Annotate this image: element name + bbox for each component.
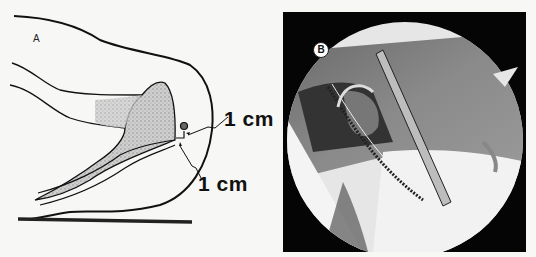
bone-outline	[12, 63, 142, 95]
panel-b-label: B	[313, 42, 329, 58]
portal-marker	[181, 123, 188, 130]
panel-a-label: A	[33, 33, 40, 44]
leader-line	[188, 117, 228, 135]
table-line	[18, 219, 192, 222]
panel-a-diagram: A 1 cm 1 cm	[0, 0, 280, 257]
measurement-label: 1 cm	[198, 172, 248, 196]
panel-b-arthroscopic-image: B	[283, 12, 526, 252]
measurement-label: 1 cm	[224, 107, 274, 131]
